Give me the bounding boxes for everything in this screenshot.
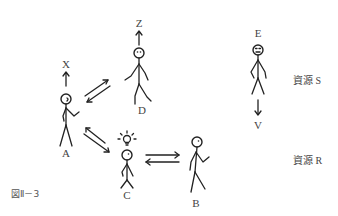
diagram-canvas: X A B C D Z E V 資源 S 資源 R 図Ⅱ－3 bbox=[0, 0, 338, 216]
resource-s-label: 資源 S bbox=[293, 76, 321, 86]
person-label-d: D bbox=[138, 105, 146, 116]
person-a-figure bbox=[60, 72, 79, 146]
figure-caption: 図Ⅱ－3 bbox=[11, 190, 39, 199]
goal-label-z: Z bbox=[136, 18, 143, 29]
goal-label-x: X bbox=[62, 59, 70, 70]
exchange-arrows-a-c bbox=[84, 128, 109, 152]
person-e-figure bbox=[251, 45, 266, 115]
person-label-e: E bbox=[255, 28, 262, 39]
person-b-figure bbox=[190, 137, 209, 192]
resource-r-label: 資源 R bbox=[293, 156, 322, 166]
person-c-figure bbox=[118, 131, 136, 188]
stick-figure-diagram bbox=[0, 0, 338, 216]
person-label-b: B bbox=[192, 198, 199, 209]
lightbulb-icon bbox=[118, 131, 136, 145]
goal-label-v: V bbox=[254, 120, 262, 131]
exchange-arrows-a-d bbox=[85, 80, 110, 102]
person-d-figure bbox=[125, 31, 151, 104]
exchange-arrows-c-b bbox=[146, 152, 179, 165]
person-label-c: C bbox=[123, 190, 130, 201]
person-label-a: A bbox=[62, 148, 70, 159]
